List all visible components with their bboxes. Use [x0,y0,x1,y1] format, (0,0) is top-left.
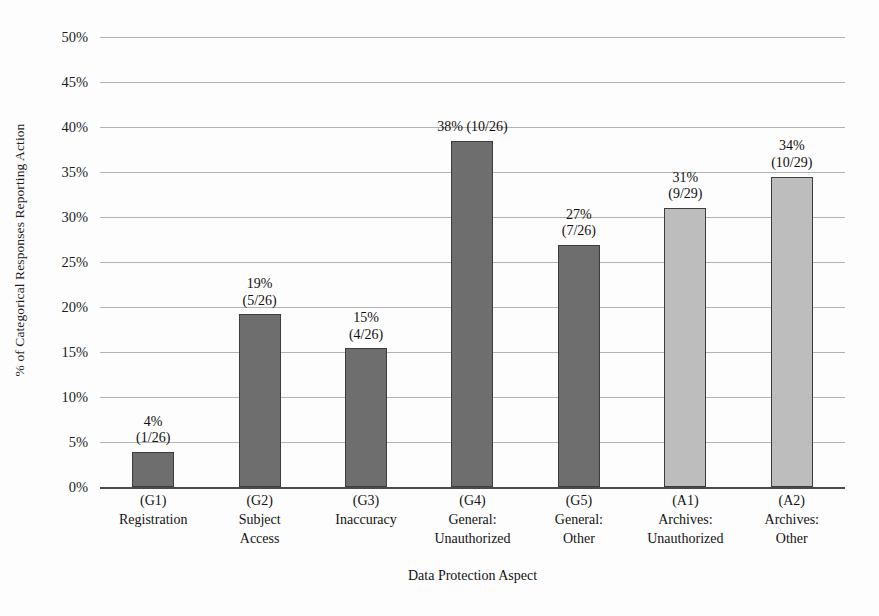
bar-slot: 15%(4/26) [313,37,419,487]
bar[interactable] [664,208,706,487]
bar-value-label-line: (9/29) [668,186,702,203]
bar-value-label: 4%(1/26) [136,414,170,447]
bar-slot: 38% (10/26) [419,37,525,487]
x-axis-category-label: (G2)SubjectAccess [206,492,312,549]
bar[interactable] [451,141,493,488]
y-axis-tick-label: 5% [18,435,88,450]
category-name-line2: Unauthorized [632,530,738,549]
plot-area: 0%5%10%15%20%25%30%35%40%45%50% 4%(1/26)… [100,37,845,487]
bar-value-label-line: 31% [668,170,702,187]
bar[interactable] [345,348,387,487]
bar-value-label-line: 27% [562,207,596,224]
bar-value-label-line: (10/29) [771,155,812,172]
bar-value-label: 27%(7/26) [562,207,596,240]
bar-value-label: 19%(5/26) [243,276,277,309]
bar-value-label-line: (5/26) [243,293,277,310]
bar-value-label-line: (4/26) [349,327,383,344]
category-name: General: [419,511,525,530]
x-axis-category-label: (G3)Inaccuracy [313,492,419,530]
y-axis-tick-label: 0% [18,480,88,495]
bar-value-label-line: 4% [136,414,170,431]
y-axis-title-text: % of Categorical Responses Reporting Act… [12,124,28,377]
bar[interactable] [558,245,600,487]
category-name: Archives: [739,511,845,530]
x-axis-category-label: (A1)Archives:Unauthorized [632,492,738,549]
bar-value-label-line: (1/26) [136,430,170,447]
y-axis-tick-label: 50% [18,30,88,45]
y-axis-tick-label: 15% [18,345,88,360]
category-name: Registration [100,511,206,530]
category-code: (G1) [100,492,206,511]
category-name: Inaccuracy [313,511,419,530]
y-axis-tick-label: 25% [18,255,88,270]
bar-value-label: 31%(9/29) [668,170,702,203]
category-code: (G5) [526,492,632,511]
bar[interactable] [132,452,174,487]
bar[interactable] [239,314,281,487]
bar-slot: 19%(5/26) [206,37,312,487]
bar-value-label-line: (7/26) [562,223,596,240]
y-axis-tick-label: 20% [18,300,88,315]
x-axis-categories: (G1)Registration(G2)SubjectAccess(G3)Ina… [100,492,845,562]
category-name-line2: Other [739,530,845,549]
x-axis-category-label: (G5)General:Other [526,492,632,549]
x-axis-category-label: (G4)General:Unauthorized [419,492,525,549]
category-name-line2: Unauthorized [419,530,525,549]
bar-slot: 27%(7/26) [526,37,632,487]
category-name: General: [526,511,632,530]
bar-slot: 4%(1/26) [100,37,206,487]
x-axis-title: Data Protection Aspect [100,568,845,584]
x-axis-category-label: (A2)Archives:Other [739,492,845,549]
x-axis-baseline [100,487,845,489]
y-axis-tick-label: 40% [18,120,88,135]
category-code: (A1) [632,492,738,511]
category-code: (G4) [419,492,525,511]
y-axis-tick-label: 10% [18,390,88,405]
bar[interactable] [771,177,813,488]
bar-chart: % of Categorical Responses Reporting Act… [0,0,879,616]
y-axis-tick-label: 30% [18,210,88,225]
category-name-line2: Access [206,530,312,549]
x-axis-category-label: (G1)Registration [100,492,206,530]
category-code: (G3) [313,492,419,511]
bar-value-label: 38% (10/26) [437,119,507,136]
bar-value-label-line: 15% [349,310,383,327]
bar-value-label-line: 38% (10/26) [437,119,507,136]
bars-layer: 4%(1/26)19%(5/26)15%(4/26)38% (10/26)27%… [100,37,845,487]
category-name: Subject [206,511,312,530]
category-name-line2: Other [526,530,632,549]
bar-value-label: 34%(10/29) [771,138,812,171]
bar-value-label-line: 19% [243,276,277,293]
bar-value-label-line: 34% [771,138,812,155]
y-axis-tick-label: 45% [18,75,88,90]
bar-slot: 31%(9/29) [632,37,738,487]
bar-value-label: 15%(4/26) [349,310,383,343]
category-name: Archives: [632,511,738,530]
category-code: (A2) [739,492,845,511]
y-axis-tick-label: 35% [18,165,88,180]
bar-slot: 34%(10/29) [739,37,845,487]
category-code: (G2) [206,492,312,511]
